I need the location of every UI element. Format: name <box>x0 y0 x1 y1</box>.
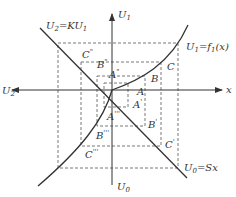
point-C-double-prime: C" <box>82 48 93 60</box>
point-B-triple-prime: B''' <box>95 129 109 141</box>
point-B-prime: B' <box>147 118 157 130</box>
point-C-prime: C' <box>165 138 175 150</box>
point-A: A <box>136 86 144 97</box>
u1-axis-label: U1 <box>118 9 131 22</box>
point-B-double-prime: B" <box>96 58 108 70</box>
u0-axis-label: U0 <box>117 181 130 194</box>
x-axis-label: x <box>226 84 232 95</box>
middle-dashed-rect <box>81 62 161 146</box>
line-label-u0-sx: U0=Sx <box>184 162 218 175</box>
u2-axis-label: U2 <box>2 85 15 98</box>
point-A-double-prime: A" <box>108 68 119 80</box>
transfer-characteristic-diagram: x U2 U1 U0 U2=KU1 U1=f1(x) U0=Sx A B C A… <box>0 0 236 197</box>
point-C-triple-prime: C''' <box>85 148 99 160</box>
point-B: B <box>150 73 158 84</box>
point-A-prime: A' <box>132 98 142 110</box>
line-label-u2-ku1: U2=KU1 <box>46 20 87 33</box>
linear-line <box>40 28 187 178</box>
curve-upper-right <box>112 25 188 90</box>
point-C: C <box>167 61 175 72</box>
curve-label-u1-f1x: U1=f1(x) <box>186 41 229 54</box>
point-A-triple-prime: A''' <box>106 110 120 122</box>
